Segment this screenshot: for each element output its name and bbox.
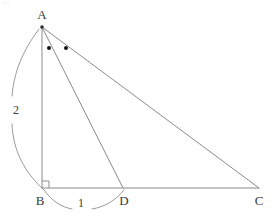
geometry-diagram: A B D C 2 1 bbox=[0, 0, 274, 217]
length-label-bd: 1 bbox=[78, 197, 84, 209]
vertex-dot-a bbox=[40, 25, 44, 29]
measure-arc-ab-upper bbox=[12, 29, 39, 96]
point-label-c: C bbox=[255, 194, 264, 207]
point-label-b: B bbox=[36, 194, 45, 207]
measure-arc-ab-lower bbox=[12, 124, 44, 190]
angle-dot-dac bbox=[64, 46, 68, 50]
right-angle-marker-b bbox=[42, 181, 49, 188]
length-label-ab: 2 bbox=[13, 104, 19, 116]
measure-arc-bd-left bbox=[44, 190, 72, 209]
point-label-d: D bbox=[119, 194, 128, 207]
angle-dot-bad bbox=[47, 46, 51, 50]
point-label-a: A bbox=[37, 8, 46, 21]
segment-ac bbox=[42, 27, 259, 188]
segment-ad bbox=[42, 27, 123, 188]
geometry-canvas bbox=[0, 0, 274, 217]
